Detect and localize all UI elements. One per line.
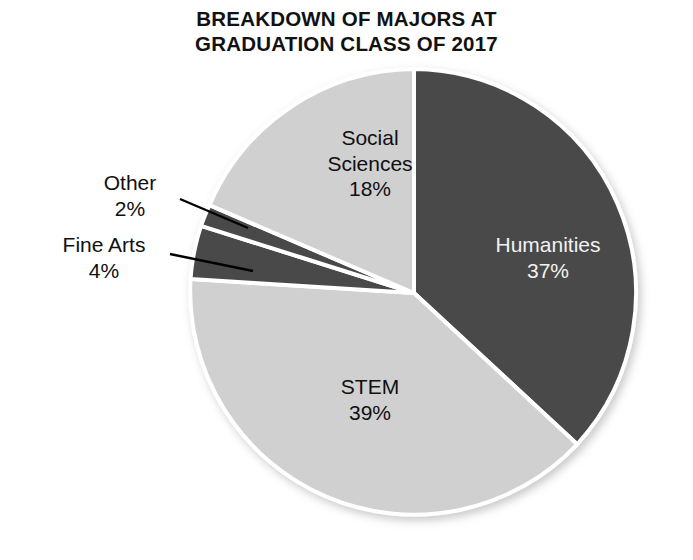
pie-chart-figure: Humanities 37% STEM 39% Social Sciences …	[0, 0, 693, 560]
pie-chart-page: BREAKDOWN OF MAJORS AT GRADUATION CLASS …	[0, 0, 693, 560]
slice-label-fine-arts: Fine Arts 4%	[14, 232, 194, 283]
pie-slices-group	[190, 69, 636, 515]
slice-label-other: Other 2%	[60, 170, 200, 221]
